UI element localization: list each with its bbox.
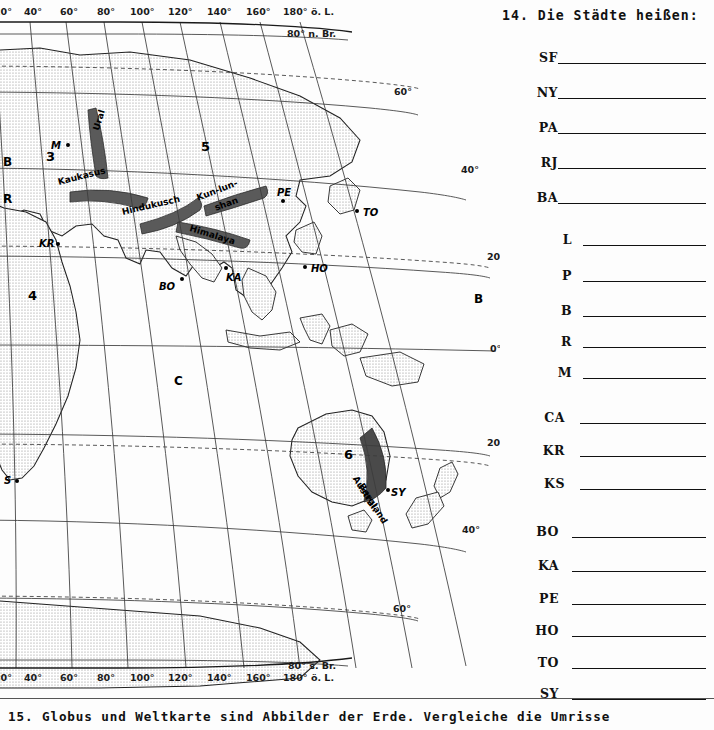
- answer-label-PE: PE: [513, 591, 559, 606]
- answer-label-NY: NY: [512, 85, 558, 100]
- answer-line-B[interactable]: [583, 316, 706, 317]
- latitude-label-4: 0°: [490, 343, 500, 354]
- answer-line-HO[interactable]: [572, 636, 706, 637]
- landmass-philippines: [294, 222, 322, 254]
- longitude-label-bottom-5: 120°: [168, 672, 193, 683]
- answer-line-RJ[interactable]: [558, 168, 706, 169]
- city-dot-SY: [386, 488, 390, 492]
- city-dot-TO: [355, 209, 359, 213]
- answer-label-KS: KS: [519, 476, 565, 491]
- city-label-TO: TO: [363, 207, 378, 218]
- answer-row-L: L: [500, 232, 714, 252]
- longitude-label-top-0: 20°: [0, 6, 12, 17]
- longitude-label-top-2: 60°: [60, 6, 78, 17]
- answer-line-CA[interactable]: [580, 423, 706, 424]
- city-label-M: M: [51, 140, 61, 151]
- world-map: 20°40°60°80°100°120°140°160°180° ö. L. 2…: [0, 0, 500, 690]
- landmass-new-guinea: [360, 352, 424, 386]
- city-label-KA: KA: [226, 272, 242, 283]
- latitude-label-2: 40°: [461, 164, 479, 175]
- longitude-label-bottom-4: 100°: [130, 672, 155, 683]
- longitude-label-top-1: 40°: [24, 6, 42, 17]
- city-label-PE: PE: [277, 187, 291, 198]
- answer-row-R: R: [500, 334, 714, 354]
- answer-label-P: P: [526, 268, 572, 283]
- task-15-text: 15. Globus und Weltkarte sind Abbilder d…: [8, 709, 610, 724]
- answer-row-BO: BO: [500, 524, 714, 544]
- answer-row-CA: CA: [500, 410, 714, 430]
- task-14-heading: 14. Die Städte heißen:: [502, 8, 699, 23]
- answer-row-SY: SY: [500, 686, 714, 706]
- answer-row-M: M: [500, 365, 714, 385]
- answer-row-KR: KR: [500, 443, 714, 463]
- answer-label-KR: KR: [519, 443, 565, 458]
- longitude-label-top-3: 80°: [97, 6, 115, 17]
- answer-line-PA[interactable]: [558, 133, 706, 134]
- answer-label-BO: BO: [513, 524, 559, 539]
- region-number-4: 4: [28, 288, 37, 303]
- landmass-nz-south: [406, 492, 444, 528]
- answer-label-SF: SF: [512, 50, 558, 65]
- answer-label-PA: PA: [512, 120, 558, 135]
- longitude-label-bottom-2: 60°: [60, 672, 78, 683]
- answer-row-KA: KA: [500, 558, 714, 578]
- answer-line-M[interactable]: [583, 378, 706, 379]
- footer-divider: [0, 698, 714, 699]
- answer-label-TO: TO: [513, 655, 559, 670]
- answer-label-CA: CA: [519, 410, 565, 425]
- ocean-letter-B-0: B: [3, 155, 12, 169]
- latitude-label-1: 60°: [394, 86, 412, 97]
- answer-label-R: R: [526, 334, 572, 349]
- longitude-label-top-5: 120°: [168, 6, 193, 17]
- answer-line-PE[interactable]: [572, 604, 706, 605]
- answer-line-SY[interactable]: [572, 699, 706, 700]
- answer-line-KR[interactable]: [580, 456, 706, 457]
- answer-row-HO: HO: [500, 623, 714, 643]
- latitude-label-8: 80° s. Br.: [288, 660, 336, 671]
- answer-label-HO: HO: [513, 623, 559, 638]
- landmass-antarctica: [0, 598, 320, 688]
- answer-row-BA: BA: [500, 190, 714, 210]
- city-dot-BO: [180, 277, 184, 281]
- latitude-label-6: 40°: [462, 524, 480, 535]
- answer-line-SF[interactable]: [558, 63, 706, 64]
- answer-line-BA[interactable]: [558, 203, 706, 204]
- answer-line-KS[interactable]: [580, 489, 706, 490]
- longitude-label-bottom-3: 80°: [97, 672, 115, 683]
- city-dot-KR: [56, 242, 60, 246]
- answer-line-R[interactable]: [583, 347, 706, 348]
- longitude-label-top-6: 140°: [207, 6, 232, 17]
- answer-label-BA: BA: [512, 190, 558, 205]
- answer-row-P: P: [500, 268, 714, 288]
- answer-line-TO[interactable]: [572, 668, 706, 669]
- longitude-label-bottom-8: 180° ö. L.: [283, 672, 334, 683]
- answer-label-L: L: [526, 232, 572, 247]
- region-number-6: 6: [344, 447, 353, 462]
- answer-row-SF: SF: [500, 50, 714, 70]
- longitude-label-bottom-7: 160°: [246, 672, 271, 683]
- city-dot-HO: [303, 265, 307, 269]
- answer-row-B: B: [500, 303, 714, 323]
- answer-row-KS: KS: [500, 476, 714, 496]
- task-14-answer-panel: 14. Die Städte heißen: SFNYPARJBALPBRMCA…: [500, 0, 714, 700]
- answer-line-P[interactable]: [583, 281, 706, 282]
- map-graphic: [0, 0, 500, 690]
- answer-line-L[interactable]: [583, 245, 706, 246]
- ocean-letter-C-3: C: [174, 374, 183, 388]
- answer-label-M: M: [526, 365, 572, 380]
- landmass-borneo: [300, 314, 330, 344]
- answer-line-NY[interactable]: [558, 98, 706, 99]
- longitude-label-bottom-0: 20°: [0, 672, 12, 683]
- answer-label-KA: KA: [513, 558, 559, 573]
- answer-line-BO[interactable]: [572, 537, 706, 538]
- region-number-5: 5: [201, 139, 210, 154]
- latitude-label-5: 20°: [487, 437, 500, 448]
- city-dot-KA: [224, 266, 228, 270]
- city-label-S: S: [4, 475, 11, 486]
- city-label-SY: SY: [391, 487, 405, 498]
- longitude-label-bottom-6: 140°: [207, 672, 232, 683]
- landmass-sulawesi: [330, 324, 368, 356]
- latitude-label-0: 80° n. Br.: [287, 28, 336, 39]
- city-label-KR: KR: [39, 238, 54, 249]
- answer-line-KA[interactable]: [572, 571, 706, 572]
